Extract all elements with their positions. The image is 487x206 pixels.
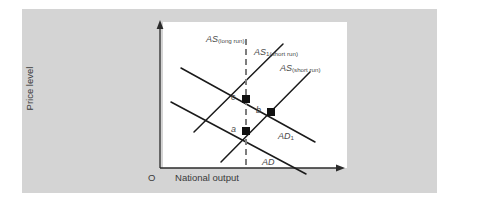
curve-label-as1-short-run-base: AS — [254, 47, 266, 57]
curve-label-ad: AD — [262, 157, 275, 167]
point-label-a: a — [231, 124, 236, 134]
curve-label-ad-base: AD — [262, 157, 275, 167]
x-axis-label: National output — [175, 172, 239, 183]
curve-label-as-long-run-base: AS — [206, 34, 218, 44]
curve-as-short-run — [221, 72, 310, 162]
curve-label-as-short-run-qualifier: (short run) — [292, 66, 321, 73]
curve-label-ad1-subscript: 1 — [291, 134, 294, 141]
curve-label-as-long-run-qualifier: (long run) — [218, 37, 244, 44]
curve-label-as1-short-run: AS1(short run) — [254, 47, 298, 57]
y-axis — [157, 20, 164, 168]
figure-panel: Price level National output O AS(long ru… — [22, 9, 437, 193]
curve-label-ad1-base: AD — [278, 131, 291, 141]
curve-label-as-long-run: AS(long run) — [206, 34, 245, 44]
origin-label: O — [148, 172, 155, 183]
y-axis-label: Price level — [24, 54, 35, 124]
curve-label-as-short-run: AS(short run) — [280, 63, 321, 73]
point-marker-b — [267, 108, 275, 116]
point-marker-c — [242, 95, 250, 103]
curve-label-as-short-run-base: AS — [280, 63, 292, 73]
point-marker-a — [242, 127, 250, 135]
curve-label-ad1: AD1 — [278, 131, 294, 141]
point-label-c: c — [231, 92, 236, 102]
curve-as1-short-run — [194, 44, 283, 132]
curve-label-as1-short-run-qualifier: (short run) — [269, 50, 298, 57]
x-axis — [160, 165, 345, 172]
point-label-b: b — [256, 105, 261, 115]
